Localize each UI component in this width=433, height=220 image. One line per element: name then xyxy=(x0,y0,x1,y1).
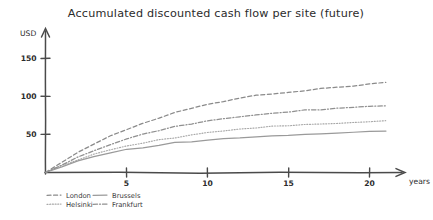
legend-label: Helsinki xyxy=(66,201,93,209)
series-line-helsinki xyxy=(46,121,386,173)
y-tick-label: 100 xyxy=(21,92,37,101)
x-axis-line xyxy=(45,172,402,173)
legend-label: London xyxy=(66,192,91,200)
chart-container: Accumulated discounted cash flow per sit… xyxy=(0,0,433,220)
x-axis-label: years xyxy=(409,177,430,186)
legend-item-london[interactable]: London xyxy=(47,192,91,200)
series-layer xyxy=(46,82,386,172)
x-axis-ticks: 5101520 xyxy=(124,168,375,188)
legend-label: Brussels xyxy=(112,192,141,200)
legend-item-helsinki[interactable]: Helsinki xyxy=(47,201,93,209)
legend-item-frankfurt[interactable]: Frankfurt xyxy=(93,201,143,209)
y-tick-label: 150 xyxy=(21,54,37,63)
y-axis-label: USD xyxy=(20,29,36,38)
legend-label: Frankfurt xyxy=(112,201,143,209)
x-tick-label: 15 xyxy=(283,179,294,188)
x-tick-label: 10 xyxy=(202,179,213,188)
line-chart: Accumulated discounted cash flow per sit… xyxy=(0,0,433,220)
y-tick-label: 50 xyxy=(26,130,37,139)
x-tick-label: 20 xyxy=(364,179,375,188)
chart-title: Accumulated discounted cash flow per sit… xyxy=(68,7,364,20)
series-line-london xyxy=(46,82,386,172)
legend-item-brussels[interactable]: Brussels xyxy=(93,192,141,200)
series-line-brussels xyxy=(46,131,386,172)
x-tick-label: 5 xyxy=(124,179,129,188)
chart-legend: LondonBrusselsHelsinkiFrankfurt xyxy=(47,192,143,209)
